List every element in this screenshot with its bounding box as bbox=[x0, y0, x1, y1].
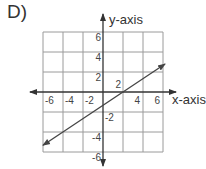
y-axis-label: y-axis bbox=[109, 12, 143, 27]
graphed-line bbox=[43, 64, 165, 145]
axes bbox=[30, 14, 176, 166]
x-tick-label: 6 bbox=[154, 95, 160, 106]
coordinate-plane: -6-4-2246642-2-4-6 x-axis y-axis bbox=[0, 0, 206, 169]
y-tick-label: -4 bbox=[92, 132, 101, 143]
x-tick-label: -4 bbox=[65, 95, 74, 106]
series bbox=[43, 64, 165, 145]
y-tick-label: 4 bbox=[95, 52, 101, 63]
x-tick-label: 2 bbox=[115, 79, 121, 90]
x-tick-label: -2 bbox=[85, 95, 94, 106]
y-tick-label: 2 bbox=[95, 72, 101, 83]
y-tick-label: -6 bbox=[92, 152, 101, 163]
y-tick-label: -2 bbox=[105, 112, 114, 123]
y-tick-label: 6 bbox=[95, 32, 101, 43]
x-tick-label: 4 bbox=[134, 95, 140, 106]
x-tick-label: -6 bbox=[45, 95, 54, 106]
x-axis-label: x-axis bbox=[172, 92, 206, 107]
